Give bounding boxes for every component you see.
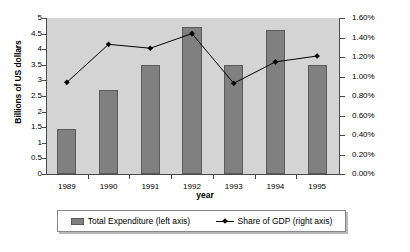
- y-axis-right-tick-mark: [340, 135, 345, 136]
- y-axis-left-tick-label: 2.5: [2, 92, 42, 100]
- chart-legend: Total Expenditure (left axis) Share of G…: [57, 210, 346, 232]
- bar: [266, 30, 285, 174]
- chart-container: Billions of US dollars Percent year 00.5…: [0, 0, 410, 252]
- y-axis-right-tick-mark: [340, 38, 345, 39]
- x-axis-tick-mark: [213, 174, 214, 179]
- y-axis-left-tick-label: 3.5: [2, 61, 42, 69]
- bar: [99, 90, 118, 174]
- y-axis-left-tick-label: 1: [2, 139, 42, 147]
- y-axis-left-tick-label: 4: [2, 45, 42, 53]
- y-axis-left-tick-label: 4.5: [2, 30, 42, 38]
- y-axis-left-tick-label: 0: [2, 170, 42, 178]
- legend-entry-line: Share of GDP (right axis): [216, 216, 333, 226]
- y-axis-left-tick-mark: [42, 65, 47, 66]
- y-axis-left-tick-mark: [42, 96, 47, 97]
- y-axis-right-tick-label: 1.00%: [352, 73, 394, 81]
- y-axis-right-tick-label: 0.60%: [352, 112, 394, 120]
- y-axis-left-tick-mark: [42, 49, 47, 50]
- y-axis-left-tick-mark: [42, 80, 47, 81]
- bar: [141, 65, 160, 174]
- x-axis-category-label: 1995: [287, 182, 347, 191]
- legend-label-line: Share of GDP (right axis): [238, 216, 333, 226]
- y-axis-right-tick-label: 1.40%: [352, 34, 394, 42]
- y-axis-left-tick-mark: [42, 112, 47, 113]
- legend-entry-bar: Total Expenditure (left axis): [71, 216, 191, 226]
- y-axis-left-tick-label: 5: [2, 14, 42, 22]
- y-axis-left-tick-label: 3: [2, 76, 42, 84]
- bar: [57, 129, 76, 174]
- x-axis-title: year: [0, 190, 410, 200]
- y-axis-right-tick-mark: [340, 57, 345, 58]
- y-axis-left-tick-mark: [42, 143, 47, 144]
- bar: [308, 65, 327, 174]
- y-axis-right-tick-mark: [340, 174, 345, 175]
- y-axis-right-tick-mark: [340, 18, 345, 19]
- x-axis-tick-mark: [171, 174, 172, 179]
- bar: [182, 27, 201, 174]
- y-axis-left-tick-mark: [42, 127, 47, 128]
- line-marker-icon: [216, 217, 234, 225]
- y-axis-left-tick-mark: [42, 18, 47, 19]
- x-axis-tick-mark: [255, 174, 256, 179]
- y-axis-right-tick-label: 1.20%: [352, 53, 394, 61]
- y-axis-right-tick-label: 0.80%: [352, 92, 394, 100]
- y-axis-right-tick-mark: [340, 116, 345, 117]
- bar-swatch-icon: [71, 218, 84, 225]
- y-axis-right-tick-label: 0.00%: [352, 170, 394, 178]
- y-axis-right-tick-mark: [340, 77, 345, 78]
- y-axis-left-tick-mark: [42, 174, 47, 175]
- y-axis-left-tick-label: 2: [2, 108, 42, 116]
- y-axis-right-tick-label: 0.40%: [352, 131, 394, 139]
- y-axis-right-tick-mark: [340, 155, 345, 156]
- y-axis-right-tick-label: 0.20%: [352, 151, 394, 159]
- y-axis-left-tick-label: 0.5: [2, 154, 42, 162]
- y-axis-left-tick-mark: [42, 158, 47, 159]
- y-axis-right-tick-mark: [340, 96, 345, 97]
- y-axis-right-tick-label: 1.60%: [352, 14, 394, 22]
- y-axis-left-tick-mark: [42, 34, 47, 35]
- legend-label-bar: Total Expenditure (left axis): [88, 216, 191, 226]
- x-axis-tick-mark: [88, 174, 89, 179]
- x-axis-tick-mark: [296, 174, 297, 179]
- x-axis-tick-mark: [129, 174, 130, 179]
- bar: [224, 65, 243, 174]
- y-axis-left-tick-label: 1.5: [2, 123, 42, 131]
